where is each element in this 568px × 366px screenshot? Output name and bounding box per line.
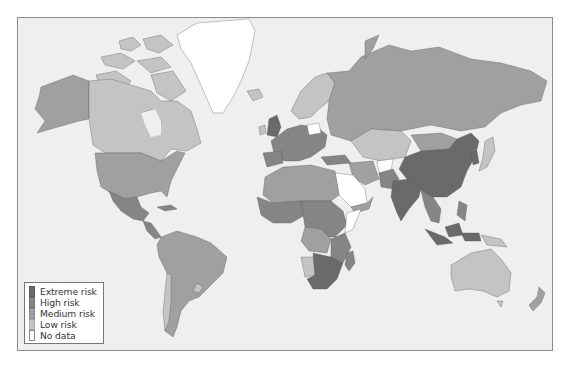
map-frame: Extreme risk High risk Medium risk Low r… <box>17 17 553 351</box>
region-central-america <box>143 221 161 239</box>
legend-swatch-low-risk <box>29 319 35 330</box>
legend-item-no-data: No data <box>29 330 99 341</box>
region-india <box>391 179 421 221</box>
region-namibia <box>301 257 315 277</box>
legend-item-extreme-risk: Extreme risk <box>29 286 99 297</box>
region-korea <box>471 151 479 165</box>
region-australia <box>451 249 511 297</box>
region-alaska <box>35 75 89 133</box>
region-ireland <box>259 125 266 135</box>
region-iberia <box>263 151 283 167</box>
region-caribbean <box>157 205 177 211</box>
legend-item-medium-risk: Medium risk <box>29 308 99 319</box>
legend-label: Low risk <box>40 319 77 330</box>
legend-label: Medium risk <box>40 308 95 319</box>
legend-swatch-no-data <box>29 330 35 341</box>
region-somalia <box>345 209 361 233</box>
legend-label: High risk <box>40 297 80 308</box>
region-poland <box>307 123 321 135</box>
region-tasmania <box>497 301 503 307</box>
region-greenland <box>177 19 255 113</box>
region-japan <box>479 137 495 171</box>
region-usa <box>95 151 185 199</box>
region-turkey <box>321 155 351 165</box>
region-russia <box>327 45 547 141</box>
region-new-zealand <box>529 287 545 311</box>
region-papua-new-guinea <box>481 235 507 247</box>
region-iceland <box>247 89 263 101</box>
legend-label: Extreme risk <box>40 286 97 297</box>
region-philippines <box>457 201 467 221</box>
region-uk <box>267 115 281 137</box>
legend-item-low-risk: Low risk <box>29 319 99 330</box>
legend-swatch-high-risk <box>29 297 35 308</box>
legend-item-high-risk: High risk <box>29 297 99 308</box>
legend-swatch-extreme-risk <box>29 286 35 297</box>
region-indonesia <box>425 223 481 245</box>
region-north-africa <box>263 165 339 203</box>
legend-label: No data <box>40 330 75 341</box>
map-legend: Extreme risk High risk Medium risk Low r… <box>24 282 104 344</box>
legend-swatch-medium-risk <box>29 308 35 319</box>
